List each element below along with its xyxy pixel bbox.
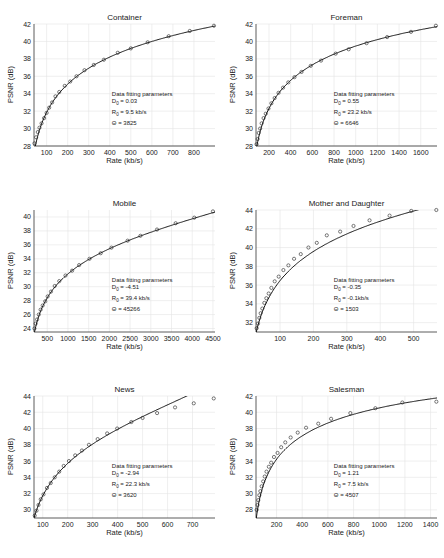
svg-text:400: 400: [285, 149, 297, 156]
svg-text:300: 300: [341, 335, 353, 342]
fit-parameters-note: Data fitting parametersD0 = -4.51R0 = 39…: [112, 277, 173, 313]
data-point: [212, 397, 215, 400]
x-axis-label: Rate (kb/s): [34, 156, 215, 165]
data-point: [280, 446, 283, 449]
chart-panel-container: 1002003004005006007008002830323436384042…: [0, 0, 222, 186]
x-axis-label: Rate (kb/s): [34, 342, 215, 351]
data-point: [317, 422, 320, 425]
svg-text:44: 44: [245, 207, 253, 214]
data-point: [325, 234, 328, 237]
svg-text:40: 40: [23, 425, 31, 432]
data-point: [315, 241, 318, 244]
svg-text:30: 30: [23, 283, 31, 290]
data-point: [270, 461, 273, 464]
svg-text:38: 38: [245, 425, 253, 432]
y-axis-label: PSNR (dB): [6, 427, 15, 487]
svg-text:34: 34: [245, 458, 253, 465]
svg-text:36: 36: [245, 441, 253, 448]
data-point: [388, 214, 391, 217]
fit-curve: [256, 398, 437, 521]
svg-text:400: 400: [296, 521, 308, 528]
data-point: [263, 475, 266, 478]
data-point: [272, 455, 275, 458]
data-point: [339, 230, 342, 233]
svg-text:32: 32: [23, 108, 31, 115]
svg-text:500: 500: [41, 335, 53, 342]
svg-text:34: 34: [23, 90, 31, 97]
svg-text:1400: 1400: [423, 521, 439, 528]
svg-text:500: 500: [125, 149, 137, 156]
data-point: [282, 268, 285, 271]
svg-text:600: 600: [322, 521, 334, 528]
svg-text:1200: 1200: [370, 149, 386, 156]
svg-text:1500: 1500: [81, 335, 97, 342]
data-point: [173, 406, 176, 409]
chart-title: News: [34, 385, 215, 394]
fit-parameters-note: Data fitting parametersD0 = 0.03R0 = 9.5…: [112, 91, 173, 127]
fit-curve: [256, 205, 437, 333]
svg-text:42: 42: [23, 409, 31, 416]
svg-text:28: 28: [23, 143, 31, 150]
svg-text:500: 500: [408, 335, 420, 342]
svg-text:700: 700: [167, 149, 179, 156]
svg-text:400: 400: [104, 149, 116, 156]
svg-text:42: 42: [245, 225, 253, 232]
svg-text:28: 28: [245, 143, 253, 150]
svg-text:1000: 1000: [371, 521, 387, 528]
data-point: [96, 438, 99, 441]
svg-text:40: 40: [245, 244, 253, 251]
svg-text:44: 44: [23, 393, 31, 400]
svg-text:40: 40: [245, 38, 253, 45]
y-axis-label: PSNR (dB): [6, 55, 15, 115]
svg-text:38: 38: [245, 55, 253, 62]
fit-parameters-note: Data fitting parametersD0 = -0.35R0 = -0…: [334, 277, 395, 313]
y-axis-label: PSNR (dB): [6, 241, 15, 301]
svg-text:200: 200: [62, 521, 74, 528]
svg-text:32: 32: [245, 319, 253, 326]
fit-parameters-note: Data fitting parametersD0 = 1.21R0 = 7.5…: [334, 463, 395, 499]
svg-text:32: 32: [23, 490, 31, 497]
data-point: [299, 253, 302, 256]
svg-text:600: 600: [146, 149, 158, 156]
data-point: [435, 400, 438, 403]
svg-text:28: 28: [245, 506, 253, 513]
svg-text:36: 36: [23, 458, 31, 465]
svg-text:32: 32: [245, 108, 253, 115]
svg-text:26: 26: [23, 311, 31, 318]
chart-title: Container: [34, 13, 215, 22]
y-axis-label: PSNR (dB): [228, 241, 237, 301]
svg-text:38: 38: [23, 441, 31, 448]
svg-text:24: 24: [23, 325, 31, 332]
y-axis-label: PSNR (dB): [228, 427, 237, 487]
svg-text:34: 34: [245, 300, 253, 307]
data-point: [292, 257, 295, 260]
data-point: [155, 411, 158, 414]
fit-parameters-note: Data fitting parametersD0 = 0.55R0 = 23.…: [334, 91, 395, 127]
chart-title: Salesman: [256, 385, 437, 394]
svg-text:800: 800: [348, 521, 360, 528]
data-point: [289, 436, 292, 439]
svg-text:38: 38: [23, 227, 31, 234]
svg-text:100: 100: [37, 521, 49, 528]
svg-text:1200: 1200: [397, 521, 413, 528]
svg-text:42: 42: [23, 21, 31, 28]
data-point: [304, 426, 307, 429]
svg-text:36: 36: [23, 241, 31, 248]
y-axis-label: PSNR (dB): [228, 55, 237, 115]
svg-text:100: 100: [274, 335, 286, 342]
svg-text:28: 28: [23, 297, 31, 304]
chart-panel-mother-and-daughter: 10020030040050032343638404244Mother and …: [222, 186, 444, 372]
chart-panel-news: 1002003004005006007003032343638404244New…: [0, 372, 222, 558]
svg-text:36: 36: [245, 73, 253, 80]
fit-parameters-note: Data fitting parametersD0 = -2.94R0 = 22…: [112, 463, 173, 499]
data-point: [265, 470, 268, 473]
svg-text:34: 34: [245, 90, 253, 97]
svg-text:200: 200: [263, 149, 275, 156]
svg-text:30: 30: [245, 125, 253, 132]
svg-text:100: 100: [41, 149, 53, 156]
chart-title: Mother and Daughter: [256, 199, 437, 208]
data-point: [273, 280, 276, 283]
fit-curve: [34, 212, 215, 335]
svg-text:40: 40: [23, 213, 31, 220]
svg-text:32: 32: [23, 269, 31, 276]
